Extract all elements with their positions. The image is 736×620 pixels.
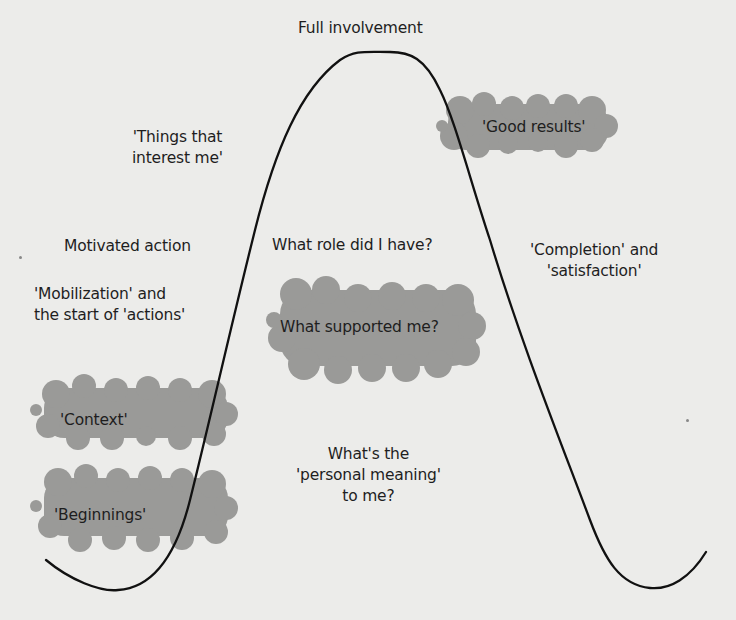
label-full-involvement: Full involvement <box>298 18 423 39</box>
speck <box>686 419 689 422</box>
label-line: 'Mobilization' and <box>34 284 185 305</box>
label-what-role: What role did I have? <box>272 235 432 256</box>
speck <box>19 256 22 259</box>
label-completion: 'Completion' and 'satisfaction' <box>530 240 658 282</box>
label-personal-meaning: What's the 'personal meaning' to me? <box>296 444 441 507</box>
label-line: What's the <box>296 444 441 465</box>
label-motivated-action: Motivated action <box>64 236 191 257</box>
label-what-supported: What supported me? <box>280 317 439 338</box>
label-line: interest me' <box>132 148 223 169</box>
label-line: to me? <box>296 486 441 507</box>
label-line: 'personal meaning' <box>296 465 441 486</box>
label-line: 'satisfaction' <box>530 261 658 282</box>
label-things-interest: 'Things that interest me' <box>132 127 223 169</box>
label-line: the start of 'actions' <box>34 305 185 326</box>
label-beginnings: 'Beginnings' <box>54 505 146 526</box>
involvement-diagram: Full involvement 'Things that interest m… <box>0 0 736 620</box>
label-line: 'Things that <box>132 127 223 148</box>
label-mobilization: 'Mobilization' and the start of 'actions… <box>34 284 185 326</box>
label-context: 'Context' <box>60 410 127 431</box>
label-line: 'Completion' and <box>530 240 658 261</box>
label-good-results: 'Good results' <box>482 117 585 138</box>
